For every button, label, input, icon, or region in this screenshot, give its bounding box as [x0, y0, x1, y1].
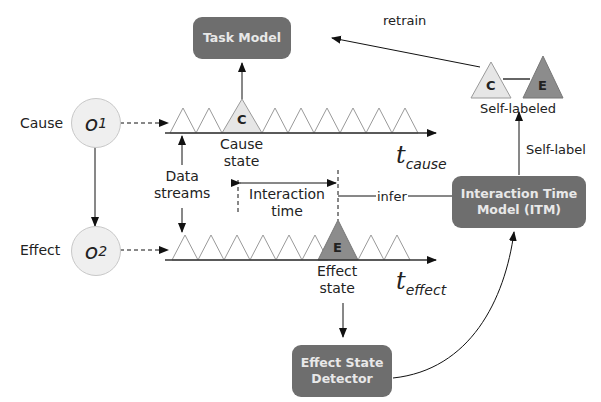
retrain-label: retrain: [383, 12, 426, 29]
o1-subscript: 1: [98, 115, 107, 131]
task-model-label: Task Model: [203, 30, 281, 46]
effect-state-detector-box: Effect State Detector: [292, 345, 392, 397]
o1-node: o1: [71, 98, 121, 148]
self-c-marker: C: [486, 78, 496, 93]
interaction-time-label: Interaction time: [249, 186, 325, 220]
effect-state-line2: state: [317, 280, 357, 297]
effect-state-line1: Effect: [317, 263, 357, 280]
self-labeled-label: Self-labeled: [480, 100, 556, 117]
data-streams-line2: streams: [154, 185, 210, 202]
t-symbol: t: [396, 267, 406, 295]
task-model-box: Task Model: [193, 17, 291, 59]
cause-subscript: cause: [406, 156, 447, 172]
t-symbol: t: [396, 141, 406, 169]
cause-axis-label: tcause: [396, 141, 447, 172]
effect-state-marker: E: [333, 240, 342, 255]
effect-state-label: Effect state: [317, 263, 357, 297]
o2-subscript: 2: [98, 243, 107, 259]
effect-label: Effect: [20, 242, 60, 259]
effect-subscript: effect: [406, 282, 447, 298]
itm-label-line1: Interaction Time: [461, 186, 577, 202]
data-streams-label: Data streams: [154, 168, 210, 202]
interaction-time-line2: time: [249, 203, 325, 220]
itm-label-line2: Model (ITM): [477, 202, 561, 218]
o1-symbol: o: [85, 111, 98, 136]
detector-label-line1: Effect State: [301, 355, 384, 371]
o2-symbol: o: [85, 239, 98, 264]
cause-state-marker: C: [237, 112, 247, 127]
data-streams-line1: Data: [154, 168, 210, 185]
cause-state-label: Cause state: [220, 136, 263, 170]
cause-label: Cause: [20, 115, 63, 132]
self-label-label: Self-label: [526, 141, 586, 158]
cause-state-line1: Cause: [220, 136, 263, 153]
cause-stream-triangles: [170, 108, 418, 133]
itm-box: Interaction Time Model (ITM): [452, 176, 586, 228]
self-e-marker: E: [538, 78, 547, 93]
o2-node: o2: [71, 226, 121, 276]
detector-label-line2: Detector: [311, 371, 372, 387]
effect-stream-triangles: [172, 235, 410, 260]
infer-label: infer: [377, 188, 407, 205]
effect-axis-label: teffect: [396, 267, 446, 298]
cause-state-line2: state: [220, 153, 263, 170]
interaction-time-line1: Interaction: [249, 186, 325, 203]
